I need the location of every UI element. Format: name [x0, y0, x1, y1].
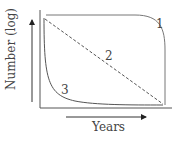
- curve-1-label: 1: [156, 18, 164, 30]
- curve-2-label: 2: [105, 50, 113, 62]
- y-axis-label: Number (log): [4, 8, 18, 90]
- survivorship-diagram: [0, 0, 178, 144]
- y-axis-label-wrap: Number (log): [4, 56, 16, 68]
- curve-3-label: 3: [61, 84, 69, 96]
- x-axis-label: Years: [92, 121, 125, 133]
